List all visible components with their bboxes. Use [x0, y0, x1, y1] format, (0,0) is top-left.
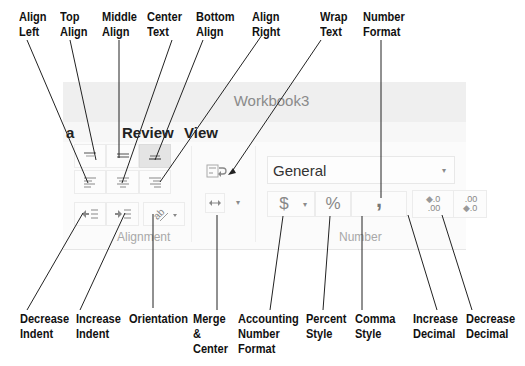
percent-style-button[interactable]: % [315, 191, 351, 217]
chevron-down-icon: ▾ [442, 166, 446, 175]
increase-decimal-button[interactable]: ◆.0 .00 [412, 190, 454, 218]
align-center-icon [116, 176, 130, 188]
dollar-icon: $ [279, 194, 288, 214]
svg-text:ab: ab [151, 206, 167, 222]
align-left-icon [83, 176, 97, 188]
align-left-button[interactable] [74, 170, 106, 194]
group-divider [255, 146, 256, 242]
tab-data[interactable]: a [66, 124, 74, 141]
callout-comma-style: Comma Style [355, 312, 395, 342]
merge-center-button[interactable] [205, 193, 225, 213]
percent-icon: % [325, 194, 340, 214]
accounting-number-format-button[interactable]: $ ▾ [267, 191, 315, 217]
callout-merge-center: Merge & Center [193, 312, 228, 357]
callout-accounting-number-format: Accounting Number Format [238, 312, 299, 357]
number-group-label: Number [339, 230, 382, 244]
align-bottom-icon [148, 151, 162, 161]
increase-indent-icon [114, 208, 132, 220]
excel-ribbon: Workbook3 a Review View [63, 82, 466, 250]
align-right-icon [148, 176, 162, 188]
center-text-button[interactable] [106, 170, 139, 194]
callout-align-right: Align Right [252, 10, 280, 40]
callout-increase-indent: Increase Indent [76, 312, 121, 342]
number-format-select[interactable]: General ▾ [267, 156, 455, 184]
callout-bottom-align: Bottom Align [196, 10, 235, 40]
ribbon-body: ab Alignment ▾ General ▾ $ ▾ % , [63, 142, 466, 250]
callout-middle-align: Middle Align [102, 10, 137, 40]
title-bar: Workbook3 [63, 82, 466, 122]
window-title: Workbook3 [63, 92, 466, 109]
merge-dropdown-chevron-icon[interactable]: ▾ [236, 198, 240, 207]
align-middle-icon [116, 151, 130, 161]
comma-icon: , [376, 195, 382, 205]
increase-indent-button[interactable] [106, 202, 139, 226]
tab-view[interactable]: View [184, 124, 218, 141]
group-divider [191, 146, 192, 242]
decrease-indent-button[interactable] [74, 202, 106, 226]
callout-orientation: Orientation [129, 312, 188, 327]
align-right-button[interactable] [139, 170, 171, 194]
bottom-align-button[interactable] [139, 144, 171, 168]
callout-align-left: Align Left [19, 10, 47, 40]
callout-wrap-text: Wrap Text [320, 10, 347, 40]
merge-center-icon [208, 199, 222, 207]
number-format-value: General [273, 162, 326, 179]
decrease-decimal-button[interactable]: .00 ◆.0 [453, 190, 487, 218]
chevron-down-icon [173, 214, 177, 217]
wrap-text-button[interactable] [204, 160, 230, 182]
callout-percent-style: Percent Style [306, 312, 347, 342]
orientation-icon: ab [151, 205, 177, 223]
wrap-text-icon [206, 163, 228, 179]
callout-increase-decimal: Increase Decimal [413, 312, 458, 342]
top-align-button[interactable] [74, 144, 106, 168]
comma-style-button[interactable]: , [351, 191, 407, 217]
spacer [423, 190, 424, 191]
callout-decrease-indent: Decrease Indent [20, 312, 69, 342]
callout-center-text: Center Text [147, 10, 182, 40]
middle-align-button[interactable] [106, 144, 139, 168]
chevron-down-icon: ▾ [303, 200, 307, 209]
tab-review[interactable]: Review [122, 124, 174, 141]
callout-number-format: Number Format [363, 10, 405, 40]
increase-decimal-icon: ◆.0 .00 [426, 195, 441, 213]
decrease-decimal-icon: .00 ◆.0 [463, 195, 478, 213]
decrease-indent-icon [81, 208, 99, 220]
callout-top-align: Top Align [60, 10, 88, 40]
callout-decrease-decimal: Decrease Decimal [466, 312, 515, 342]
align-top-icon [83, 151, 97, 161]
orientation-button[interactable]: ab [143, 202, 185, 226]
alignment-group-label: Alignment [117, 230, 170, 244]
